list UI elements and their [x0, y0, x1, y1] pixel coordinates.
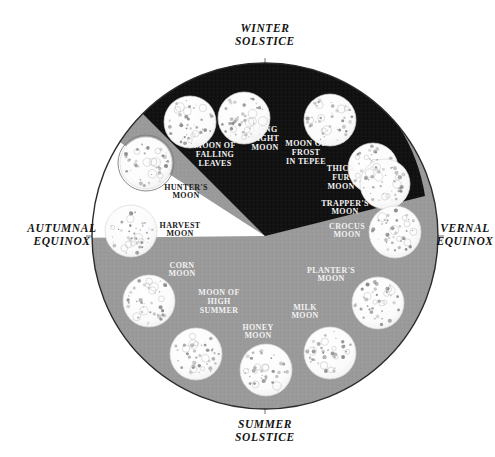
moon-label-crocus-moon: CROCUSMOON	[329, 222, 365, 240]
moon-label-long-night-moon: LONGNIGHTMOON	[251, 125, 280, 151]
moon-disc	[123, 275, 175, 327]
season-label-vernal-equinox: VERNALEQUINOX	[435, 222, 493, 247]
moon-label-milk-moon: MILKMOON	[291, 303, 318, 321]
moon-label-honey-moon: HONEYMOON	[242, 323, 273, 341]
calendar-wheel-svg: LONGNIGHTMOONMOON OFFROSTIN TEPEETHICKFU…	[0, 0, 495, 457]
moon-disc	[120, 137, 172, 189]
moon-disc	[164, 96, 216, 148]
moon-label-corn-moon: CORNMOON	[168, 261, 195, 279]
moon-label-moon-of-falling-leaves: MOON OFFALLINGLEAVES	[194, 141, 235, 167]
moon-disc	[304, 327, 356, 379]
moon-disc	[304, 94, 356, 146]
moon-calendar-figure: LONGNIGHTMOONMOON OFFROSTIN TEPEETHICKFU…	[0, 0, 495, 457]
season-label-winter-solstice: WINTERSOLSTICE	[235, 22, 295, 47]
season-label-autumnal-equinox: AUTUMNALEQUINOX	[26, 222, 96, 247]
season-label-summer-solstice: SUMMERSOLSTICE	[235, 418, 295, 443]
